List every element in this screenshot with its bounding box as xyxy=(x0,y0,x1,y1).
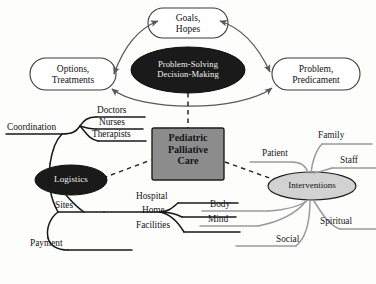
branch-label-body: Body xyxy=(210,199,230,209)
node-problem-predicament xyxy=(272,58,360,90)
branch-label-patient: Patient xyxy=(262,148,288,158)
branch-label-social: Social xyxy=(276,234,299,244)
node-logistics-oval xyxy=(35,165,107,195)
branch-label-home: Home xyxy=(142,205,165,215)
node-interventions-oval xyxy=(268,172,356,200)
branch-label-facilities: Facilities xyxy=(136,220,170,230)
concept-map-diagram: Goals, Hopes Options, Treatments Problem… xyxy=(0,0,376,284)
branch-label-spiritual: Spiritual xyxy=(320,216,352,226)
node-pediatric-palliative-care-box xyxy=(152,128,224,180)
branch-label-doctors: Doctors xyxy=(97,105,126,115)
branch-label-payment: Payment xyxy=(30,238,63,248)
node-options-treatments xyxy=(30,58,116,90)
connector-center-to-interventions xyxy=(225,162,275,180)
branch-label-mind: Mind xyxy=(208,214,228,224)
branch-label-nurses: Nurses xyxy=(99,117,125,127)
branch-label-hospital: Hospital xyxy=(136,191,168,201)
node-goals-hopes xyxy=(148,8,228,38)
branch-label-therapists: Therapists xyxy=(92,129,131,139)
node-problem-solving-oval xyxy=(131,47,245,93)
branch-label-family: Family xyxy=(318,130,344,140)
branch-label-sites: Sites xyxy=(55,200,73,210)
connector-logistics-to-center xyxy=(103,160,151,178)
branch-label-staff: Staff xyxy=(340,155,358,165)
branch-label-coordination: Coordination xyxy=(7,122,56,132)
